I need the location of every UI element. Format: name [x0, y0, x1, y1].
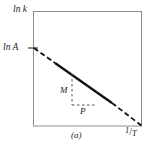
figure-caption: (a)	[71, 131, 82, 140]
slope-run-label: P	[80, 107, 86, 116]
x-axis-title-denominator: T	[132, 128, 137, 138]
plot-frame	[34, 12, 142, 127]
x-axis-title-numerator: 1	[125, 125, 129, 135]
x-axis-title: 1/T	[125, 127, 137, 137]
arrhenius-plot-figure: ln k ln A M P 1/T (a)	[0, 0, 152, 149]
y-intercept-label: ln A	[3, 43, 18, 53]
slope-rise-label: M	[60, 86, 68, 95]
y-axis-title: ln k	[13, 5, 27, 15]
